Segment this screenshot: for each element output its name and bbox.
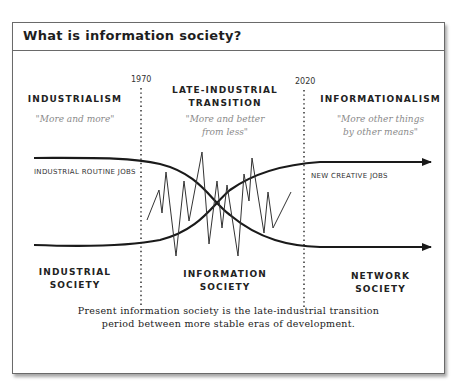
diagram-caption: Present information society is the late-… — [12, 304, 445, 330]
era-informationalism-label: INFORMATIONALISM — [318, 93, 443, 106]
era-informationalism-quote: "More other things by other means" — [318, 113, 443, 139]
declining-curve-label: INDUSTRIAL ROUTINE JOBS — [34, 168, 136, 176]
year-start-label: 1970 — [131, 75, 151, 84]
year-end-label: 2020 — [295, 77, 315, 86]
information-society-label: INFORMATION SOCIETY — [160, 268, 290, 294]
era-industrialism-quote: "More and more" — [20, 113, 130, 126]
era-transition-quote: "More and better from less" — [160, 113, 290, 139]
industrial-society-label: INDUSTRIAL SOCIETY — [20, 266, 130, 292]
network-society-label: NETWORK SOCIETY — [318, 270, 443, 296]
era-transition-label: LATE-INDUSTRIAL TRANSITION — [160, 84, 290, 110]
era-industrialism-label: INDUSTRIALISM — [20, 93, 130, 106]
rising-curve-label: NEW CREATIVE JOBS — [311, 172, 388, 180]
